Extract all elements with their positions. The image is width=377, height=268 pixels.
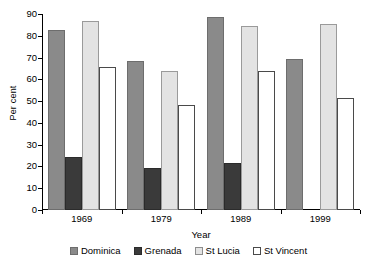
bar-slot [303, 14, 320, 210]
y-tick-label: 30 [26, 139, 37, 150]
bar-groups [42, 14, 360, 210]
y-axis-title: Per cent [8, 68, 18, 138]
legend-swatch-icon [134, 247, 142, 255]
chart-legend: DominicaGrenadaSt LuciaSt Vincent [0, 245, 377, 256]
bar-slot [65, 14, 82, 210]
bar-group-bars [281, 14, 361, 210]
bar-slot [144, 14, 161, 210]
y-tick-label: 10 [26, 182, 37, 193]
bar[interactable] [320, 24, 337, 210]
legend-swatch-icon [253, 247, 261, 255]
bar[interactable] [207, 17, 224, 210]
legend-label: St Vincent [264, 245, 307, 256]
bar[interactable] [127, 61, 144, 210]
bar[interactable] [241, 26, 258, 210]
bar-chart: Per cent 0102030405060708090 19691979198… [0, 0, 377, 268]
bar-slot [286, 14, 303, 210]
y-tick-label: 80 [26, 30, 37, 41]
x-tick-label: 1999 [281, 213, 361, 224]
bar[interactable] [178, 105, 195, 210]
bar-slot [178, 14, 195, 210]
bar-slot [207, 14, 224, 210]
bar-slot [241, 14, 258, 210]
bar[interactable] [48, 30, 65, 210]
legend-swatch-icon [195, 247, 203, 255]
legend-item-st-vincent[interactable]: St Vincent [253, 245, 307, 256]
bar[interactable] [286, 59, 303, 210]
bar-group-bars [122, 14, 202, 210]
bar-slot [127, 14, 144, 210]
bar[interactable] [258, 71, 275, 210]
bar-slot [337, 14, 354, 210]
bar-group [42, 14, 122, 210]
y-tick-label: 70 [26, 52, 37, 63]
x-tick-label: 1979 [122, 213, 202, 224]
y-tick-label: 60 [26, 73, 37, 84]
y-tick-label: 50 [26, 95, 37, 106]
legend-label: Dominica [81, 245, 121, 256]
legend-label: St Lucia [206, 245, 240, 256]
bar-slot [258, 14, 275, 210]
bar-group [201, 14, 281, 210]
y-tick-label: 40 [26, 117, 37, 128]
bar-group [281, 14, 361, 210]
bar[interactable] [144, 168, 161, 210]
y-tick-label: 20 [26, 160, 37, 171]
bar-slot [161, 14, 178, 210]
legend-item-dominica[interactable]: Dominica [70, 245, 121, 256]
x-axis-labels: 1969197919891999 [42, 213, 360, 224]
legend-item-grenada[interactable]: Grenada [134, 245, 182, 256]
x-tick-mark [360, 210, 361, 214]
bar[interactable] [161, 71, 178, 210]
bar-group-bars [201, 14, 281, 210]
bar[interactable] [337, 98, 354, 210]
bar[interactable] [224, 163, 241, 210]
bar-group [122, 14, 202, 210]
legend-item-st-lucia[interactable]: St Lucia [195, 245, 240, 256]
bar-slot [48, 14, 65, 210]
bar-slot [82, 14, 99, 210]
legend-label: Grenada [145, 245, 182, 256]
x-axis-title: Year [42, 229, 360, 240]
y-tick-label: 0 [32, 204, 37, 215]
y-tick-label: 90 [26, 8, 37, 19]
bar[interactable] [99, 67, 116, 210]
x-tick-label: 1989 [201, 213, 281, 224]
bar-group-bars [42, 14, 122, 210]
bar-slot [224, 14, 241, 210]
bar-slot [99, 14, 116, 210]
legend-swatch-icon [70, 247, 78, 255]
bar[interactable] [82, 21, 99, 210]
bar-slot [320, 14, 337, 210]
x-tick-label: 1969 [42, 213, 122, 224]
plot-area: 0102030405060708090 [42, 14, 360, 210]
bar[interactable] [65, 157, 82, 210]
